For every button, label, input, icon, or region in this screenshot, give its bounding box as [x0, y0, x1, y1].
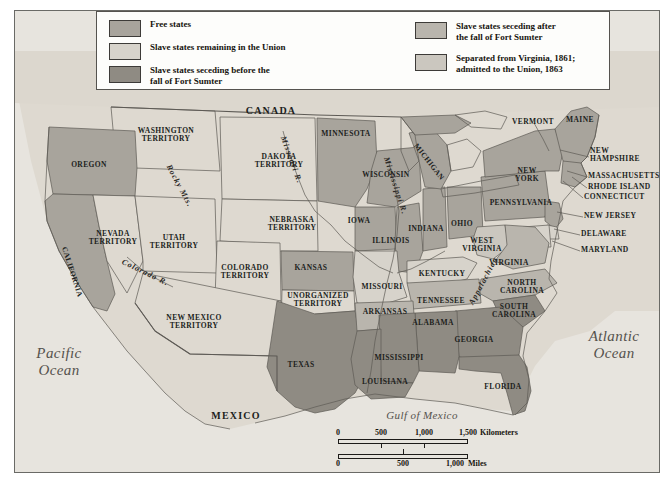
state-label: OREGON	[71, 161, 107, 169]
scale-bar: 0 500 1,000 1,500 Kilometers 0 500 1,000…	[318, 427, 523, 473]
state-label: SOUTH CAROLINA	[492, 303, 536, 319]
state-label: MINNESOTA	[321, 130, 370, 138]
state-label: TEXAS	[287, 361, 314, 369]
state-callout-label: MARYLAND	[581, 246, 629, 254]
legend-column-right: Slave states seceding after the fall of …	[405, 19, 575, 89]
legend-label-seceded-before-sumter: Slave states seceding before the fall of…	[150, 65, 270, 86]
scale-unit-km: Kilometers	[480, 428, 518, 437]
scale-label-km-500: 500	[375, 428, 387, 437]
legend-swatch-free-states	[109, 20, 141, 37]
state-label: NORTH CAROLINA	[500, 279, 544, 295]
legend-item: Free states	[109, 19, 405, 37]
scale-tick	[403, 449, 404, 454]
map-page: Free states Slave states remaining in th…	[0, 0, 672, 483]
legend-item: Slave states seceding before the fall of…	[109, 65, 405, 86]
legend-item: Separated from Virginia, 1861; admitted …	[415, 53, 575, 74]
scale-label-mi-500: 500	[397, 459, 409, 468]
country-label: MEXICO	[211, 411, 260, 422]
country-label: CANADA	[246, 106, 297, 117]
water-label: Atlantic Ocean	[589, 328, 640, 363]
legend-label-seceded-after-sumter: Slave states seceding after the fall of …	[456, 21, 556, 42]
state-label: ILLINOIS	[372, 237, 409, 245]
state-callout-label: RHODE ISLAND	[588, 183, 651, 191]
scale-unit-mi: Miles	[468, 459, 487, 468]
legend-item: Slave states seceding after the fall of …	[415, 21, 575, 42]
scale-label-km-1500: 1,500	[459, 428, 477, 437]
state-label: KENTUCKY	[419, 270, 466, 278]
legend-swatch-union-slave-states	[109, 43, 141, 60]
legend-label-west-virginia: Separated from Virginia, 1861; admitted …	[456, 53, 575, 74]
state-label: FLORIDA	[484, 383, 521, 391]
state-label: UNORGANIZED TERRITORY	[287, 292, 349, 308]
state-callout-label: DELAWARE	[581, 230, 627, 238]
legend-item: Slave states remaining in the Union	[109, 42, 405, 60]
state-label: ARKANSAS	[363, 308, 407, 316]
state-label: UTAH TERRITORY	[150, 234, 199, 250]
state-label: WASHINGTON TERRITORY	[138, 127, 194, 143]
legend-label-free-states: Free states	[150, 19, 191, 30]
state-label: OHIO	[451, 220, 473, 228]
map-legend: Free states Slave states remaining in th…	[96, 11, 610, 90]
state-label: MISSOURI	[361, 283, 402, 291]
legend-column-left: Free states Slave states remaining in th…	[97, 19, 405, 89]
state-label: MISSISSIPPI	[374, 354, 423, 362]
state-label: COLORADO TERRITORY	[221, 264, 270, 280]
state-label: NEVADA TERRITORY	[89, 230, 138, 246]
state-label: MAINE	[566, 116, 594, 124]
state-callout-label: NEW JERSEY	[584, 212, 636, 220]
state-label: KANSAS	[295, 264, 328, 272]
state-label: INDIANA	[408, 225, 444, 233]
legend-swatch-seceded-after-sumter	[415, 22, 447, 39]
legend-swatch-seceded-before-sumter	[109, 66, 141, 83]
state-label: NEW YORK	[515, 167, 539, 183]
state-label: LOUISIANA	[362, 378, 408, 386]
state-callout-label: NEW HAMPSHIRE	[590, 147, 640, 163]
state-label: NEW MEXICO TERRITORY	[166, 314, 221, 330]
state-label: PENNSYLVANIA	[490, 199, 553, 207]
state-label: IOWA	[348, 217, 370, 225]
state-callout-label: MASSACHUSETTS	[588, 172, 659, 180]
scale-bar-km	[338, 439, 468, 444]
legend-swatch-west-virginia	[415, 54, 447, 71]
state-label: TENNESSEE	[417, 297, 465, 305]
scale-label-mi-0: 0	[336, 459, 340, 468]
state-label: NEBRASKA TERRITORY	[268, 216, 317, 232]
state-callout-label: CONNECTICUT	[584, 193, 645, 201]
water-label: Gulf of Mexico	[386, 410, 458, 422]
state-label: GEORGIA	[454, 336, 493, 344]
scale-label-km-0: 0	[336, 428, 340, 437]
state-label: WEST VIRGINIA	[462, 237, 501, 253]
state-label: VERMONT	[512, 118, 554, 126]
scale-tick	[381, 444, 382, 448]
scale-label-km-1000: 1,000	[415, 428, 433, 437]
water-label: Pacific Ocean	[36, 345, 81, 380]
legend-label-union-slave-states: Slave states remaining in the Union	[150, 42, 286, 53]
state-label: ALABAMA	[412, 319, 454, 327]
scale-label-mi-1000: 1,000	[446, 459, 464, 468]
scale-tick	[424, 444, 425, 448]
